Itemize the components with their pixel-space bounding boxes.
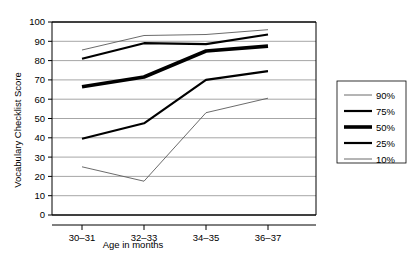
line-chart: Vocabulary Checklist Score 0102030405060… xyxy=(0,0,409,266)
y-tick-label: 100 xyxy=(29,16,45,27)
legend: 90%75%50%25%10% xyxy=(337,81,406,165)
legend-label-75pct: 75% xyxy=(376,106,396,117)
chart-container: Vocabulary Checklist Score 0102030405060… xyxy=(0,0,409,266)
x-tick-label: 36–37 xyxy=(255,232,281,243)
legend-label-50pct: 50% xyxy=(376,122,396,133)
y-tick-label: 0 xyxy=(40,209,45,220)
y-tick-label: 50 xyxy=(34,113,45,124)
y-tick-label: 40 xyxy=(34,132,45,143)
x-axis-title: Age in months xyxy=(103,239,164,250)
y-tick-label: 20 xyxy=(34,171,45,182)
legend-label-10pct: 10% xyxy=(376,154,396,165)
x-tick-label: 30–31 xyxy=(69,232,95,243)
y-tick-label: 80 xyxy=(34,55,45,66)
legend-label-25pct: 25% xyxy=(376,138,396,149)
y-tick-label: 90 xyxy=(34,36,45,47)
y-tick-label: 30 xyxy=(34,152,45,163)
x-tick-label: 34–35 xyxy=(193,232,219,243)
y-tick-label: 60 xyxy=(34,94,45,105)
legend-box xyxy=(337,81,406,163)
y-tick-label: 10 xyxy=(34,190,45,201)
y-axis-title: Vocabulary Checklist Score xyxy=(12,72,23,188)
y-tick-label: 70 xyxy=(34,74,45,85)
legend-label-90pct: 90% xyxy=(376,90,396,101)
